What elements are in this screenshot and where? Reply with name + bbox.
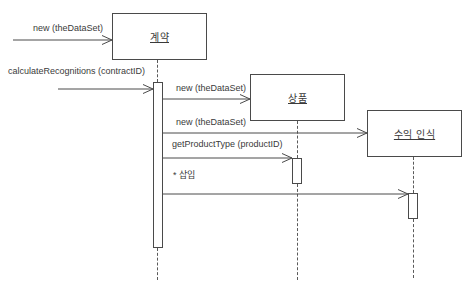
activation-contract <box>153 82 163 248</box>
message-label-get-product-type: getProductType (productID) <box>172 139 283 149</box>
sequence-diagram: 계약 상품 수익 인식 new (theDataSet) calculateRe… <box>0 0 474 288</box>
message-arrow-new-contract <box>13 34 113 46</box>
activation-product <box>292 158 302 184</box>
message-arrow-insert <box>163 188 409 200</box>
lifeline-contract-stub <box>157 60 158 82</box>
object-box-contract: 계약 <box>112 13 207 60</box>
message-label-new-contract: new (theDataSet) <box>33 23 103 33</box>
lifeline-revenue-tail <box>413 219 414 278</box>
message-label-calculate-recognitions: calculateRecognitions (contractID) <box>8 66 145 76</box>
message-label-insert: * 삽입 <box>173 168 195 181</box>
activation-revenue <box>408 193 418 219</box>
object-label-revenue-recognition: 수익 인식 <box>394 126 435 141</box>
lifeline-revenue-upper <box>413 157 414 193</box>
message-arrow-get-product-type <box>163 152 293 164</box>
message-arrow-new-product <box>163 93 251 105</box>
object-label-contract: 계약 <box>150 29 169 44</box>
message-label-new-revenue: new (theDataSet) <box>176 117 246 127</box>
message-arrow-calculate-recognitions <box>58 83 154 95</box>
object-box-revenue-recognition: 수익 인식 <box>367 110 462 157</box>
message-arrow-new-revenue <box>163 127 368 139</box>
object-label-product: 상품 <box>288 90 307 105</box>
message-label-new-product: new (theDataSet) <box>176 83 246 93</box>
object-box-product: 상품 <box>250 74 345 121</box>
lifeline-contract-tail <box>157 248 158 280</box>
